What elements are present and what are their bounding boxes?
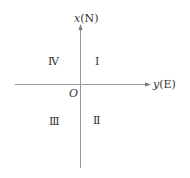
quadrant-1-label: Ⅰ bbox=[95, 56, 99, 67]
horizontal-axis-arrow-icon bbox=[145, 83, 151, 87]
horizontal-axis-direction: (E) bbox=[159, 78, 176, 91]
quadrant-2-label: Ⅱ bbox=[93, 115, 100, 126]
vertical-axis-direction: (N) bbox=[80, 12, 98, 25]
quadrant-4-label: Ⅳ bbox=[48, 56, 59, 67]
vertical-axis-label: x(N) bbox=[74, 13, 98, 24]
origin-label: O bbox=[69, 88, 78, 99]
horizontal-axis-label: y(E) bbox=[153, 79, 176, 90]
quadrant-3-label: Ⅲ bbox=[49, 116, 60, 127]
